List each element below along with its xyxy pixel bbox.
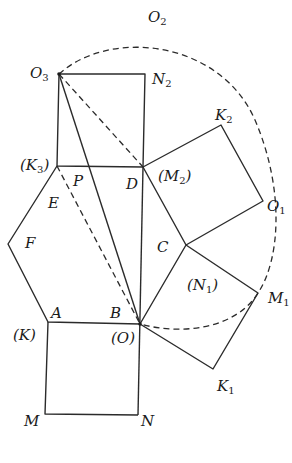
label-o1: O1 [267, 197, 286, 216]
label-k3: (K3) [20, 156, 49, 175]
label-o2: O2 [148, 8, 167, 27]
label-o: (O) [111, 329, 135, 347]
label-p: P [72, 172, 84, 190]
label-n: N [140, 412, 155, 430]
label-k1: K1 [216, 377, 235, 396]
label-n2: N2 [151, 70, 172, 89]
label-c: C [157, 238, 169, 256]
point-labels: O2O3N2K2(K3)PD(M2)EO1FC(N1)M1AB(K)(O)K1M… [13, 8, 290, 430]
point-b [138, 322, 142, 326]
segment-o3-b [59, 74, 140, 324]
label-n1: (N1) [187, 276, 218, 295]
label-f: F [24, 234, 36, 252]
label-m1: M1 [267, 289, 290, 308]
point-o3 [57, 72, 61, 76]
dashed-arc [59, 47, 276, 329]
label-m2: (M2) [158, 167, 192, 186]
label-o3: O3 [30, 64, 49, 83]
label-m: M [23, 412, 40, 430]
square-d-k2-o1-c [143, 125, 263, 245]
segment-d-n [138, 167, 143, 415]
label-k: (K) [13, 326, 36, 344]
label-d: D [125, 175, 138, 193]
label-b: B [109, 304, 121, 322]
label-k2: K2 [214, 106, 233, 125]
geometry-diagram: O2O3N2K2(K3)PD(M2)EO1FC(N1)M1AB(K)(O)K1M… [0, 0, 292, 463]
label-e: E [47, 194, 59, 212]
square-c-m1-k1-b [140, 245, 258, 369]
label-a: A [49, 304, 62, 322]
dashed-o3-d [59, 74, 143, 167]
